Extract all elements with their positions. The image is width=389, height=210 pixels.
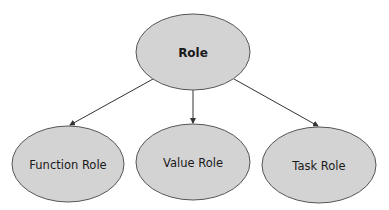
node-task-role: Task Role (262, 127, 376, 203)
arrow-to-function-role (70, 79, 153, 125)
node-function-role-label: Function Role (29, 158, 106, 172)
node-value-role: Value Role (136, 124, 250, 200)
node-task-role-label: Task Role (291, 159, 345, 173)
node-function-role: Function Role (12, 126, 124, 202)
node-role-label: Role (178, 46, 208, 60)
node-value-role-label: Value Role (163, 156, 223, 170)
role-diagram: Role Function Role Value Role Task Role (0, 0, 389, 210)
arrow-to-task-role (234, 79, 318, 126)
node-role: Role (136, 14, 250, 90)
